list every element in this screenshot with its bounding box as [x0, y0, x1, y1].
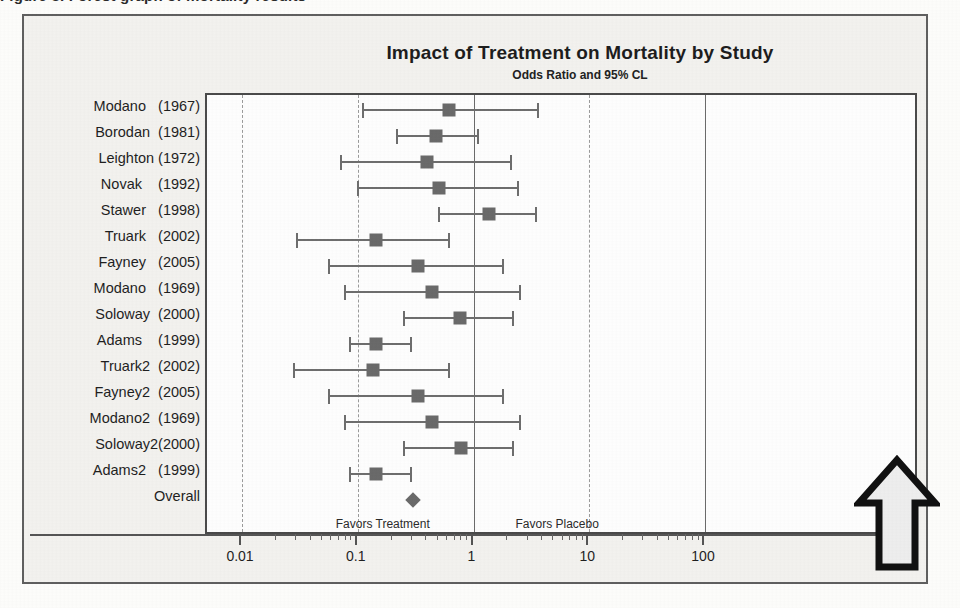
figure-caption: Figure 3. Forest graph of mortality resu… [0, 0, 960, 4]
axis-tick-minor [569, 534, 570, 540]
axis-tick-minor [338, 534, 339, 540]
axis-tick-major [355, 534, 357, 545]
ci-cap-lower [357, 181, 359, 196]
chart-subtitle: Odds Ratio and 95% CL [230, 68, 930, 82]
ci-cap-upper [537, 103, 539, 118]
axis-tick-minor [541, 534, 542, 540]
axis-tick-minor [437, 534, 438, 540]
overall-diamond-marker [405, 492, 421, 508]
point-estimate-marker [482, 208, 495, 221]
axis-tick-label: 100 [691, 548, 714, 564]
ci-cap-upper [519, 415, 521, 430]
point-estimate-marker [426, 286, 439, 299]
axis-tick-minor [657, 534, 658, 540]
axis-tick-minor [310, 534, 311, 540]
study-label: Adams (1999) [24, 327, 200, 353]
forest-row [207, 279, 915, 305]
ci-cap-upper [502, 389, 504, 404]
point-estimate-marker [426, 416, 439, 429]
axis-tick-minor [692, 534, 693, 540]
axis-tick-minor [330, 534, 331, 540]
ci-cap-lower [349, 467, 351, 482]
x-axis: 0.010.1110100 [205, 534, 917, 535]
axis-tick-major [471, 534, 473, 545]
study-label-column: Modano (1967)Borodan (1981)Leighton (197… [24, 93, 200, 509]
ci-cap-lower [293, 363, 295, 378]
study-label: Soloway2(2000) [24, 431, 200, 457]
ci-cap-lower [344, 285, 346, 300]
study-label: Modano2 (1969) [24, 405, 200, 431]
study-label: Fayney2 (2005) [24, 379, 200, 405]
point-estimate-marker [443, 104, 456, 117]
axis-tick-minor [668, 534, 669, 540]
point-estimate-marker [455, 442, 468, 455]
point-estimate-marker [429, 130, 442, 143]
axis-tick-minor [698, 534, 699, 540]
study-label: Stawer (1998) [24, 197, 200, 223]
study-label: Modano (1969) [24, 275, 200, 301]
study-label: Borodan (1981) [24, 119, 200, 145]
axis-tick-label: 10 [579, 548, 595, 564]
axis-tick-minor [685, 534, 686, 540]
ci-cap-lower [328, 389, 330, 404]
ci-cap-upper [448, 363, 450, 378]
favors-placebo-label: Favors Placebo [516, 517, 599, 531]
axis-tick-minor [275, 534, 276, 540]
axis-tick-minor [295, 534, 296, 540]
axis-tick-label: 0.01 [226, 548, 253, 564]
study-label: Leighton (1972) [24, 145, 200, 171]
axis-tick-minor [506, 534, 507, 540]
forest-row [207, 305, 915, 331]
point-estimate-marker [370, 234, 383, 247]
axis-tick-major [586, 534, 588, 545]
ci-cap-upper [512, 311, 514, 326]
ci-cap-upper [448, 233, 450, 248]
ci-cap-upper [410, 337, 412, 352]
ci-cap-upper [502, 259, 504, 274]
axis-tick-minor [622, 534, 623, 540]
ci-cap-lower [344, 415, 346, 430]
forest-row [207, 331, 915, 357]
forest-row [207, 175, 915, 201]
ci-cap-lower [396, 129, 398, 144]
forest-row [207, 97, 915, 123]
axis-tick-minor [582, 534, 583, 540]
study-label: Modano (1967) [24, 93, 200, 119]
point-estimate-marker [453, 312, 466, 325]
point-estimate-marker [411, 390, 424, 403]
forest-row [207, 383, 915, 409]
axis-tick-minor [454, 534, 455, 540]
ci-cap-upper [535, 207, 537, 222]
axis-tick-minor [391, 534, 392, 540]
forest-row [207, 461, 915, 487]
ci-cap-upper [477, 129, 479, 144]
axis-tick-major [702, 534, 704, 545]
study-label: Fayney (2005) [24, 249, 200, 275]
forest-row [207, 201, 915, 227]
study-label: Novak (1992) [24, 171, 200, 197]
point-estimate-marker [411, 260, 424, 273]
ci-cap-lower [362, 103, 364, 118]
forest-row [207, 123, 915, 149]
forest-row [207, 253, 915, 279]
axis-tick-major [239, 534, 241, 545]
axis-tick-minor [527, 534, 528, 540]
forest-row [207, 149, 915, 175]
axis-tick-minor [350, 534, 351, 540]
axis-tick-minor [642, 534, 643, 540]
ci-cap-lower [438, 207, 440, 222]
axis-tick-label: 0.1 [346, 548, 365, 564]
study-label: Truark2 (2002) [24, 353, 200, 379]
favors-treatment-label: Favors Treatment [336, 517, 430, 531]
axis-tick-minor [576, 534, 577, 540]
chart-title: Impact of Treatment on Mortality by Stud… [230, 42, 930, 64]
point-estimate-marker [432, 182, 445, 195]
point-estimate-marker [421, 156, 434, 169]
study-label: Soloway (2000) [24, 301, 200, 327]
ci-cap-lower [296, 233, 298, 248]
ci-cap-lower [328, 259, 330, 274]
forest-row [207, 487, 915, 513]
ci-cap-lower [403, 311, 405, 326]
ci-cap-lower [403, 441, 405, 456]
up-arrow-icon [854, 455, 940, 577]
